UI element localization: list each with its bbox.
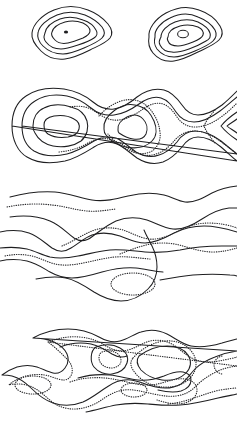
closed-dotted-loop-left [15,376,51,394]
isoline-2-dotted [7,204,116,211]
right-hill-ring-outer [149,8,222,62]
right-edge-chevron-2 [227,119,237,133]
panel-nested-closed-contours [0,0,237,78]
isoline-9-dotted [120,243,237,254]
isoline-3-solid [10,208,237,240]
isoline-1-solid [10,186,237,202]
left-hill-ring-inner [52,21,90,43]
bottom-solid-boundary [86,394,237,412]
closed-dotted-loop-center [121,383,147,397]
left-hill-summit-mark [64,31,68,34]
lower-middle-lobe-solid [78,372,191,392]
isoline-10-solid [36,230,157,301]
dotted-intermediate-upper [70,103,237,127]
isoline-8-solid [0,260,163,279]
right-edge-chevron-1 [221,112,237,140]
closed-dotted-loop-right [214,356,222,374]
right-hill-ring-inner [167,25,203,46]
lower-middle-lobe-dotted [70,378,197,404]
panel-complex-interlocking-contours [0,316,237,422]
outer-envelope-contour [2,329,237,405]
dotted-around-right-high [99,100,160,154]
isoline-11-solid-tail [160,274,237,280]
contour-map-figure [0,0,237,424]
left-hill-contour-group [32,7,112,60]
right-hill-summit-mark [178,30,189,38]
upper-middle-closed-cell-dotted [99,351,121,368]
panel-elongated-contours-with-saddle [0,82,237,170]
panel-open-wavy-isolines [0,176,237,310]
isoline-6-solid [0,246,237,258]
closed-dotted-loop [111,273,155,295]
right-hill-contour-group [149,8,222,62]
left-hill-ring-outer [32,7,112,60]
upper-middle-closed-cell [91,345,127,374]
right-high-ring-inner [118,115,147,139]
